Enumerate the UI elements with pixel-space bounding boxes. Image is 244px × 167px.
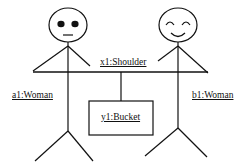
left-woman-label: a1:Woman: [12, 91, 53, 101]
shoulder-label: x1:Shoulder: [100, 58, 146, 68]
left-person-head-icon: [49, 8, 87, 42]
bucket-label: y1:Bucket: [101, 113, 140, 123]
right-person-head-icon: [159, 8, 197, 42]
left-person-body: [33, 42, 93, 161]
diagram-canvas: [0, 0, 244, 167]
right-woman-label: b1:Woman: [192, 91, 233, 101]
